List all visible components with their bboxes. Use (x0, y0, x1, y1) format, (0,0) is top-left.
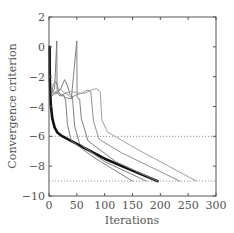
x-axis-label: Iterations (105, 214, 160, 227)
y-tick-label: −4 (29, 101, 45, 114)
y-tick-label: 0 (38, 41, 45, 54)
y-tick-labels: 20−2−4−6−8−10 (22, 11, 45, 203)
data-series (50, 41, 197, 181)
x-tick-label: 300 (206, 199, 227, 212)
x-tick-label: 50 (70, 199, 84, 212)
x-tick-label: 200 (150, 199, 171, 212)
y-tick-label: −10 (22, 190, 45, 203)
y-axis-label: Convergence criterion (6, 43, 19, 168)
x-tick-label: 150 (122, 199, 143, 212)
convergence-chart: 050100150200250300 20−2−4−6−8−10 Iterati… (0, 0, 234, 233)
y-tick-label: 2 (38, 11, 45, 24)
y-tick-label: −6 (29, 130, 45, 143)
x-tick-label: 0 (46, 199, 53, 212)
y-tick-label: −8 (29, 160, 45, 173)
x-tick-labels: 050100150200250300 (46, 199, 227, 212)
x-tick-label: 250 (178, 199, 199, 212)
series-grey-4 (52, 90, 180, 181)
x-tick-label: 100 (94, 199, 115, 212)
y-tick-label: −2 (29, 71, 45, 84)
